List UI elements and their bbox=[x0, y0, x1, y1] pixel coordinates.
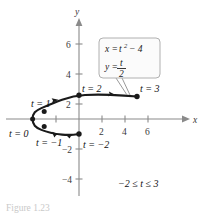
x-axis-arrowhead bbox=[182, 116, 190, 123]
figure-caption-strip: Figure 1.23 bbox=[0, 203, 208, 217]
callout-leader-line-2 bbox=[122, 78, 130, 95]
point-label-tm2: t = −2 bbox=[83, 139, 109, 150]
curve-direction-arrows bbox=[52, 91, 115, 138]
equation-x-remainder: − 4 bbox=[129, 44, 143, 54]
point-label-tm1: t = −1 bbox=[36, 137, 62, 148]
point-label-t1: t = 1 bbox=[31, 98, 51, 109]
point-labels-group: t = 0 t = 1 t = 2 t = 3 t = −1 t = −2 bbox=[9, 83, 160, 150]
point-label-t0: t = 0 bbox=[9, 128, 29, 139]
y-tick-label-4: 4 bbox=[66, 70, 71, 80]
y-tick-label-2: 2 bbox=[66, 100, 71, 110]
figure-caption: Figure 1.23 bbox=[6, 203, 50, 213]
y-tick-label-neg4: −4 bbox=[62, 175, 72, 185]
equation-x-base: t bbox=[119, 44, 122, 54]
figure-container: x y 2 4 6 6 4 2 −2 −4 bbox=[0, 0, 208, 217]
y-axis-label: y bbox=[74, 7, 80, 17]
point-label-t2: t = 2 bbox=[82, 83, 102, 94]
parametric-curve-chart: x y 2 4 6 6 4 2 −2 −4 bbox=[0, 0, 208, 217]
point-label-t3: t = 3 bbox=[140, 83, 160, 94]
equation-y-denominator: 2 bbox=[119, 69, 124, 79]
data-point-tm1 bbox=[42, 124, 47, 129]
equation-x-lhs: x = bbox=[104, 44, 118, 54]
data-point-t3 bbox=[134, 94, 139, 99]
parameter-domain-annotation: −2 ≤ t ≤ 3 bbox=[118, 178, 159, 189]
equation-y-numerator: t bbox=[120, 58, 123, 68]
equation-y-lhs: y = bbox=[104, 62, 118, 72]
y-tick-label-neg2: −2 bbox=[62, 145, 72, 155]
x-axis-label: x bbox=[192, 115, 198, 125]
direction-arrow-lower-2 bbox=[66, 135, 73, 139]
data-point-t0 bbox=[30, 117, 35, 122]
x-tick-label-6: 6 bbox=[145, 127, 150, 137]
y-tick-label-6: 6 bbox=[66, 40, 71, 50]
data-point-tm2 bbox=[76, 131, 81, 136]
y-axis-arrowhead bbox=[76, 18, 83, 26]
data-point-t1 bbox=[42, 109, 47, 114]
data-point-t2 bbox=[76, 93, 81, 98]
callout-leader-line bbox=[116, 78, 127, 95]
x-tick-label-2: 2 bbox=[99, 127, 104, 137]
x-tick-label-4: 4 bbox=[122, 127, 127, 137]
